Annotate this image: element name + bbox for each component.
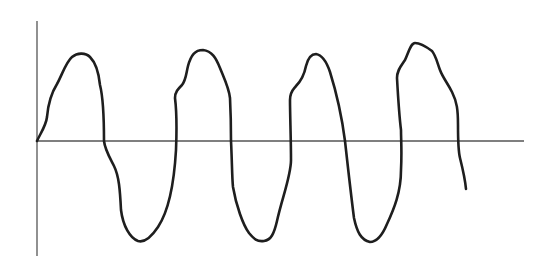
waveform-svg [0, 0, 552, 266]
wave-curve [37, 43, 466, 242]
waveform-diagram [0, 0, 552, 266]
